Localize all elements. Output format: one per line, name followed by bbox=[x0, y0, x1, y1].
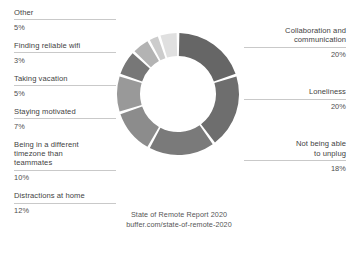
legend-value: 10% bbox=[14, 173, 116, 182]
legend-label: Finding reliable wifi bbox=[14, 41, 116, 50]
legend-left: Other 5% Finding reliable wifi 3% Taking… bbox=[14, 8, 116, 224]
chart-caption: State of Remote Report 2020 buffer.com/s… bbox=[0, 210, 358, 230]
legend-label: Not being able to unplug bbox=[244, 139, 346, 158]
donut-segment bbox=[150, 125, 213, 155]
legend-value: 20% bbox=[244, 50, 346, 59]
legend-rule bbox=[14, 203, 116, 204]
legend-label: Other bbox=[14, 8, 116, 17]
donut-chart bbox=[116, 32, 240, 156]
legend-item-finding-reliable-wifi: Finding reliable wifi 3% bbox=[14, 41, 116, 65]
chart-canvas: Other 5% Finding reliable wifi 3% Taking… bbox=[0, 0, 358, 254]
legend-rule bbox=[14, 52, 116, 53]
legend-label: Distractions at home bbox=[14, 191, 116, 200]
donut-segment bbox=[201, 76, 239, 142]
legend-rule bbox=[244, 160, 346, 161]
legend-item-taking-vacation: Taking vacation 5% bbox=[14, 74, 116, 98]
legend-item-not-being-able-to-unplug: Not being able to unplug 18% bbox=[244, 139, 346, 172]
legend-value: 5% bbox=[14, 23, 116, 32]
donut-segment bbox=[120, 107, 159, 147]
legend-item-loneliness: Loneliness 20% bbox=[244, 87, 346, 111]
donut-segment bbox=[179, 33, 236, 81]
legend-label: Taking vacation bbox=[14, 74, 116, 83]
legend-label: Staying motivated bbox=[14, 107, 116, 116]
legend-value: 3% bbox=[14, 56, 116, 65]
legend-rule bbox=[14, 118, 116, 119]
legend-value: 18% bbox=[244, 164, 346, 173]
legend-item-different-timezone: Being in a different timezone than teamm… bbox=[14, 140, 116, 183]
legend-label: Collaboration and communication bbox=[244, 26, 346, 45]
legend-rule bbox=[244, 47, 346, 48]
donut-segment bbox=[117, 76, 142, 111]
legend-value: 20% bbox=[244, 102, 346, 111]
legend-label: Being in a different timezone than teamm… bbox=[14, 140, 116, 168]
donut-svg bbox=[116, 32, 240, 156]
legend-label: Loneliness bbox=[244, 87, 346, 96]
legend-item-staying-motivated: Staying motivated 7% bbox=[14, 107, 116, 131]
legend-rule bbox=[14, 85, 116, 86]
caption-title: State of Remote Report 2020 bbox=[0, 210, 358, 220]
legend-rule bbox=[14, 19, 116, 20]
legend-item-other: Other 5% bbox=[14, 8, 116, 32]
legend-rule bbox=[14, 170, 116, 171]
legend-right: Collaboration and communication 20% Lone… bbox=[244, 26, 346, 201]
caption-source: buffer.com/state-of-remote-2020 bbox=[0, 220, 358, 230]
legend-value: 7% bbox=[14, 122, 116, 131]
legend-value: 5% bbox=[14, 89, 116, 98]
donut-segment-group bbox=[117, 33, 239, 155]
legend-item-collaboration-and-communication: Collaboration and communication 20% bbox=[244, 26, 346, 59]
legend-rule bbox=[244, 99, 346, 100]
